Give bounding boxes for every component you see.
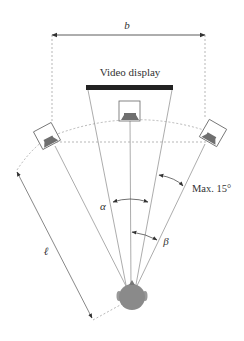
right-speaker [199, 119, 226, 146]
beta-angle: β [132, 232, 169, 247]
alpha-angle: α [100, 199, 148, 212]
video-display: Video display [86, 66, 173, 90]
alpha-label: α [100, 200, 106, 212]
beta-label: β [162, 235, 169, 247]
distance-label: ℓ [44, 245, 49, 257]
display-label: Video display [100, 66, 161, 78]
width-label: b [124, 19, 130, 31]
max-angle-label: Max. 15° [192, 183, 231, 194]
distance-dimension: ℓ [17, 172, 122, 320]
left-speaker [33, 122, 60, 149]
listener-head [117, 280, 148, 310]
max-angle: Max. 15° [159, 175, 231, 194]
center-speaker [119, 101, 140, 121]
speaker-layout-diagram: b Video display ℓ α [0, 0, 244, 341]
